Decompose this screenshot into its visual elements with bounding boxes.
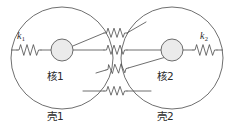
core-1-label: 核1 [47,71,64,82]
spring-k1-label: k1 [17,31,25,41]
coupling-2-coil [104,45,127,54]
spring-k2-label: k2 [200,31,208,41]
spring-k1-label-sub: 1 [22,35,25,42]
spring-k1-label-base: k [17,30,21,41]
spring-k2-label-base: k [200,30,204,41]
spring-k1-coil [17,45,41,56]
spring-k2-label-sub: 2 [205,35,208,42]
coupling-4-coil [104,86,127,95]
coupling-3-coil [106,64,128,74]
coupling-1-coil [104,28,127,37]
diagram-canvas [0,0,234,126]
shell-2-label: 壳2 [157,111,174,122]
core-2-label: 核2 [157,71,174,82]
core-2-circle [161,39,183,61]
coupling-1-lead-right [127,22,146,33]
coupling-3-lead-left [96,70,106,73]
core-1-circle [51,39,73,61]
shell-1-label: 壳1 [47,111,64,122]
coupling-3-lead-right [128,57,166,68]
core-shell-coupling-diagram: k1 k2 核1 核2 壳1 壳2 [0,0,234,126]
coupling-1-lead-left [73,33,104,46]
spring-k2-coil [193,45,217,56]
